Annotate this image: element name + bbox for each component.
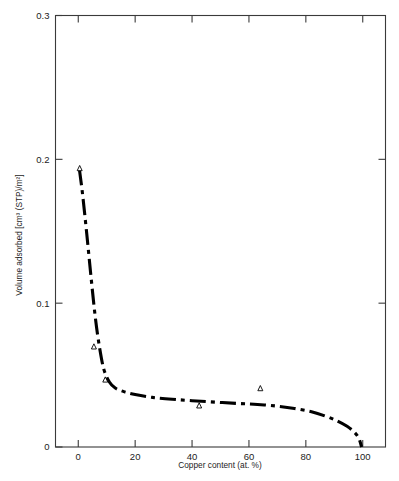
data-point-marker [258, 386, 263, 391]
x-axis-title: Copper content (at. %) [178, 460, 262, 470]
y-axis-title: Volume adsorbed [cm³ (STP)/m²] [14, 174, 24, 295]
x-tick-label: 0 [76, 451, 81, 462]
chart-plot-area: 020406080100 00.10.20.3 Copper content (… [0, 0, 399, 481]
y-tick-label: 0.3 [36, 10, 49, 21]
y-tick-label: 0.1 [36, 298, 49, 309]
data-series-group [77, 165, 361, 447]
y-tick-label: 0 [44, 441, 49, 452]
x-tick-label: 20 [130, 451, 141, 462]
data-point-marker [77, 165, 82, 170]
x-tick-label: 100 [355, 451, 371, 462]
data-curve [79, 169, 361, 447]
y-tick-labels: 00.10.20.3 [36, 10, 49, 453]
data-point-marker [91, 344, 96, 349]
x-tick-label: 80 [301, 451, 312, 462]
figure-container: 020406080100 00.10.20.3 Copper content (… [0, 0, 399, 481]
data-point-marker [197, 403, 202, 408]
y-tick-label: 0.2 [36, 154, 49, 165]
